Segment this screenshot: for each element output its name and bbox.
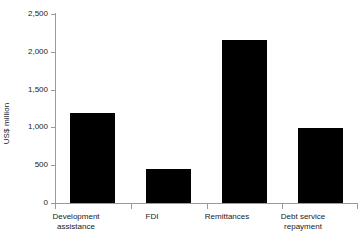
y-tick-label-1500: 1,500 [28, 86, 48, 94]
x-tick-mark-2 [207, 204, 208, 209]
y-tick-label-2000: 2,000 [28, 48, 48, 56]
x-category-label-2: Remittances [189, 212, 265, 222]
bar-debt-service-repayment [298, 128, 343, 203]
x-category-label-0: Development assistance [38, 212, 114, 232]
x-category-label-3-line1: Debt service [265, 212, 341, 222]
x-tick-mark-3 [282, 204, 283, 209]
x-category-label-3-line2: repayment [265, 222, 341, 232]
bar-chart-figure: US$ million 2,500 2,000 1,500 1,000 500 … [0, 0, 364, 243]
bar-development-assistance [70, 113, 115, 203]
plot-area [56, 14, 358, 203]
bar-remittances [222, 40, 267, 203]
x-category-label-3: Debt service repayment [265, 212, 341, 232]
y-tick-label-0: 0 [44, 199, 48, 207]
y-axis-title-text: US$ million [3, 102, 12, 144]
x-category-label-1-line1: FDI [114, 212, 190, 222]
x-category-label-2-line1: Remittances [189, 212, 265, 222]
x-tick-mark-0 [55, 204, 56, 209]
y-tick-label-500: 500 [35, 161, 48, 169]
x-tick-mark-1 [131, 204, 132, 209]
bar-fdi [146, 169, 191, 203]
x-category-label-0-line1: Development [38, 212, 114, 222]
x-category-label-0-line2: assistance [38, 222, 114, 232]
y-tick-label-1000: 1,000 [28, 123, 48, 131]
y-axis-title: US$ million [0, 88, 14, 158]
x-tick-mark-4 [357, 204, 358, 209]
y-tick-label-2500: 2,500 [28, 10, 48, 18]
x-category-label-1: FDI [114, 212, 190, 222]
